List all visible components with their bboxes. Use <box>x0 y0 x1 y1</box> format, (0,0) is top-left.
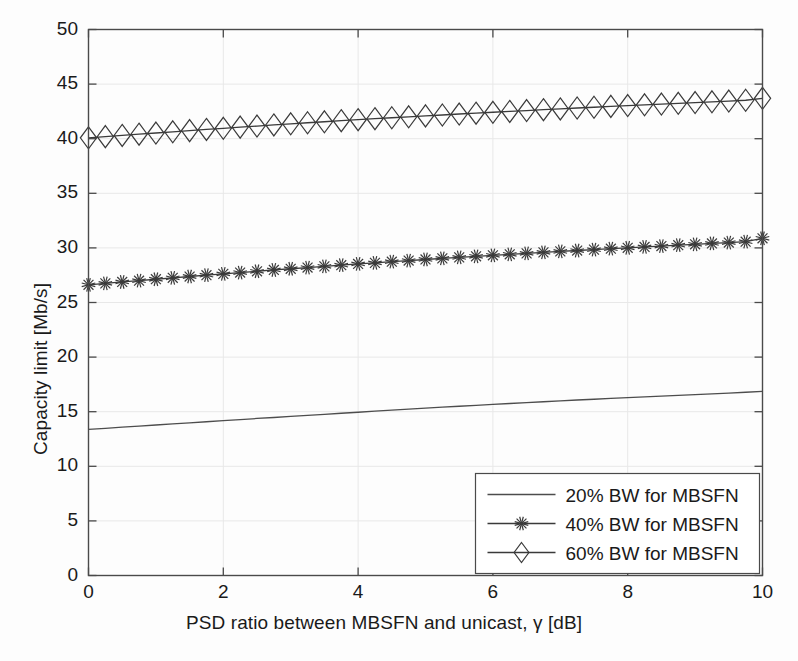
legend[interactable]: 20% BW for MBSFN40% BW for MBSFN60% BW f… <box>476 474 760 574</box>
y-tick-label: 5 <box>38 509 78 531</box>
chart-figure: 20% BW for MBSFN40% BW for MBSFN60% BW f… <box>0 0 798 661</box>
x-tick-label: 0 <box>69 581 109 603</box>
y-tick-label: 15 <box>38 400 78 422</box>
series-1 <box>89 391 763 429</box>
x-tick-label: 4 <box>338 581 378 603</box>
x-tick-label: 10 <box>743 581 783 603</box>
x-tick-label: 2 <box>203 581 243 603</box>
y-tick-label: 35 <box>38 181 78 203</box>
y-tick-label: 20 <box>38 345 78 367</box>
y-tick-label: 50 <box>38 18 78 40</box>
series-line <box>89 391 763 429</box>
legend-label: 20% BW for MBSFN <box>566 485 739 506</box>
y-tick-label: 40 <box>38 127 78 149</box>
y-tick-label: 10 <box>38 454 78 476</box>
series-2 <box>82 232 770 292</box>
plot-canvas: 20% BW for MBSFN40% BW for MBSFN60% BW f… <box>0 0 798 661</box>
y-tick-label: 30 <box>38 236 78 258</box>
x-tick-label: 8 <box>608 581 648 603</box>
x-tick-label: 6 <box>473 581 513 603</box>
y-tick-label: 45 <box>38 72 78 94</box>
x-axis-label: PSD ratio between MBSFN and unicast, γ [… <box>186 612 582 634</box>
y-tick-label: 25 <box>38 291 78 313</box>
legend-label: 60% BW for MBSFN <box>566 543 739 564</box>
legend-label: 40% BW for MBSFN <box>566 514 739 535</box>
series-3 <box>80 87 770 149</box>
